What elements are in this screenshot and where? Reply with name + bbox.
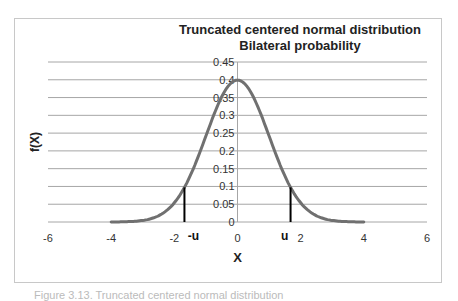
y-tick-label: 0.1 <box>219 180 234 192</box>
y-tick-label: 0.05 <box>213 198 234 210</box>
x-tick-label: -2 <box>169 232 179 244</box>
y-axis-title: f(X) <box>28 132 42 152</box>
y-tick-label: 0.45 <box>213 56 234 68</box>
x-tick-label: -6 <box>43 232 53 244</box>
chart-subtitle: Bilateral probability <box>150 38 450 53</box>
y-tick-label: 0 <box>228 216 234 228</box>
x-tick-label: 0 <box>234 232 240 244</box>
x-tick-label: 4 <box>361 232 367 244</box>
bound-marker-label: -u <box>188 229 199 243</box>
bound-marker-label: u <box>281 229 288 243</box>
x-tick-label: 2 <box>298 232 304 244</box>
figure-caption: Figure 3.13. Truncated centered normal d… <box>34 289 283 301</box>
x-tick-label: 6 <box>424 232 430 244</box>
y-tick-label: 0.3 <box>219 109 234 121</box>
chart-title: Truncated centered normal distribution <box>150 22 450 37</box>
y-tick-label: 0.25 <box>213 127 234 139</box>
y-tick-label: 0.15 <box>213 163 234 175</box>
x-axis-title: X <box>233 250 242 265</box>
x-tick-label: -4 <box>106 232 116 244</box>
y-tick-label: 0.2 <box>219 145 234 157</box>
